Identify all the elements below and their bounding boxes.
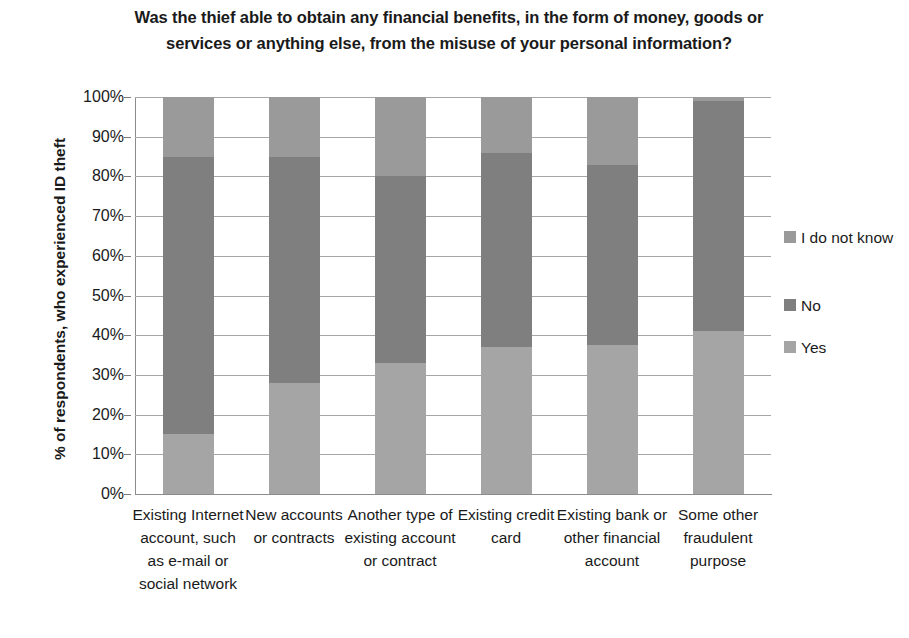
y-axis-tick bbox=[124, 216, 131, 217]
x-axis-label: Existing bank or other financial account bbox=[556, 503, 668, 572]
legend-label: I do not know bbox=[801, 228, 897, 248]
bar-segment-i-do-not-know[interactable] bbox=[587, 97, 638, 164]
y-axis-tick-label: 20% bbox=[50, 407, 124, 423]
x-axis-label: Some other fraudulent purpose bbox=[662, 503, 774, 572]
y-axis-tick bbox=[124, 335, 131, 336]
gridline bbox=[135, 137, 771, 138]
legend-swatch-icon bbox=[784, 299, 796, 311]
legend-label: Yes bbox=[801, 338, 897, 358]
y-axis-tick bbox=[124, 296, 131, 297]
gridline bbox=[135, 256, 771, 257]
bar-segment-no[interactable] bbox=[269, 157, 320, 383]
bar-column[interactable] bbox=[269, 97, 320, 494]
y-axis-tick bbox=[124, 256, 131, 257]
y-axis-tick-label: 100% bbox=[50, 89, 124, 105]
x-axis-label: New accounts or contracts bbox=[238, 503, 350, 549]
bar-segment-yes[interactable] bbox=[163, 434, 214, 494]
y-axis-tick bbox=[124, 454, 131, 455]
gridline bbox=[135, 454, 771, 455]
gridline bbox=[135, 296, 771, 297]
bar-column[interactable] bbox=[163, 97, 214, 494]
bar-segment-yes[interactable] bbox=[481, 347, 532, 494]
x-axis-category-labels: Existing Internet account, such as e-mai… bbox=[135, 503, 771, 638]
bar-segment-yes[interactable] bbox=[587, 345, 638, 494]
gridline bbox=[135, 335, 771, 336]
bar-column[interactable] bbox=[375, 97, 426, 494]
y-axis-tick-label: 10% bbox=[50, 446, 124, 462]
bar-segment-yes[interactable] bbox=[375, 363, 426, 494]
x-axis-line bbox=[135, 494, 772, 495]
y-axis-tick-label: 50% bbox=[50, 288, 124, 304]
y-axis-tick-label: 80% bbox=[50, 168, 124, 184]
bar-column[interactable] bbox=[693, 97, 744, 494]
y-axis-tick-labels: 100%90%80%70%60%50%40%30%20%10%0% bbox=[42, 97, 124, 494]
y-axis-tick bbox=[124, 415, 131, 416]
plot-area bbox=[135, 97, 771, 494]
y-axis-tick bbox=[124, 176, 131, 177]
bar-segment-yes[interactable] bbox=[693, 331, 744, 494]
y-axis-tick bbox=[124, 494, 131, 495]
y-axis-tick-label: 60% bbox=[50, 248, 124, 264]
gridline bbox=[135, 176, 771, 177]
y-axis-tick bbox=[124, 97, 131, 98]
bar-segment-i-do-not-know[interactable] bbox=[375, 97, 426, 176]
legend-item[interactable]: No bbox=[784, 296, 897, 316]
legend-item[interactable]: Yes bbox=[784, 338, 897, 358]
y-axis-tick-label: 30% bbox=[50, 367, 124, 383]
y-axis-tick-label: 40% bbox=[50, 327, 124, 343]
y-axis-tick-label: 90% bbox=[50, 129, 124, 145]
x-axis-label: Another type of existing account or cont… bbox=[344, 503, 456, 572]
bar-segment-i-do-not-know[interactable] bbox=[269, 97, 320, 157]
gridline bbox=[135, 415, 771, 416]
bar-segment-no[interactable] bbox=[481, 153, 532, 348]
y-axis-tick-label: 70% bbox=[50, 208, 124, 224]
bar-segment-no[interactable] bbox=[375, 176, 426, 363]
gridline bbox=[135, 97, 771, 98]
stacked-bar-chart: Was the thief able to obtain any financi… bbox=[0, 0, 909, 638]
gridline bbox=[135, 216, 771, 217]
y-axis-tick bbox=[124, 137, 131, 138]
bar-segment-yes[interactable] bbox=[269, 383, 320, 494]
gridline bbox=[135, 375, 771, 376]
y-axis-tick bbox=[124, 375, 131, 376]
chart-title: Was the thief able to obtain any financi… bbox=[104, 4, 794, 56]
bar-segment-no[interactable] bbox=[163, 157, 214, 435]
legend-swatch-icon bbox=[784, 341, 796, 353]
bar-segment-i-do-not-know[interactable] bbox=[693, 97, 744, 101]
legend-swatch-icon bbox=[784, 231, 796, 243]
bar-segment-no[interactable] bbox=[693, 101, 744, 331]
bar-segment-i-do-not-know[interactable] bbox=[481, 97, 532, 153]
bar-segment-i-do-not-know[interactable] bbox=[163, 97, 214, 157]
bar-segment-no[interactable] bbox=[587, 165, 638, 346]
bar-column[interactable] bbox=[587, 97, 638, 494]
x-axis-label: Existing Internet account, such as e-mai… bbox=[132, 503, 244, 595]
y-axis-tick-label: 0% bbox=[50, 486, 124, 502]
bar-column[interactable] bbox=[481, 97, 532, 494]
legend-item[interactable]: I do not know bbox=[784, 228, 897, 248]
legend-label: No bbox=[801, 296, 897, 316]
x-axis-label: Existing credit card bbox=[450, 503, 562, 549]
